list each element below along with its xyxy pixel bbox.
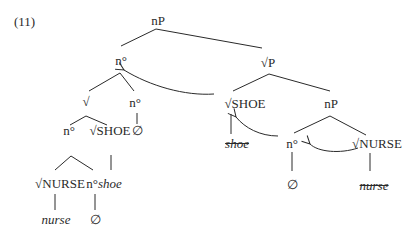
node-nurse-root: √NURSE bbox=[35, 177, 85, 191]
node-inner-n: n° bbox=[63, 124, 75, 138]
node-shoe-root: √SHOE bbox=[224, 97, 265, 111]
node-root-radical: √ bbox=[82, 95, 89, 109]
example-number: (11) bbox=[14, 14, 35, 30]
node-right-nurse-root: √NURSE bbox=[352, 137, 402, 151]
leaf-shoe-struck: shoe bbox=[225, 137, 249, 151]
node-inner-shoe-root: √SHOE bbox=[89, 124, 130, 138]
node-inner-nP: nP bbox=[324, 97, 338, 111]
node-right-n-null: ∅ bbox=[287, 178, 298, 192]
n-shoe-suffix: shoe bbox=[98, 176, 122, 191]
n-shoe-prefix: n° bbox=[86, 176, 98, 191]
leaf-nurse: nurse bbox=[42, 213, 71, 227]
node-n: n° bbox=[129, 96, 141, 110]
node-n-null: ∅ bbox=[132, 124, 143, 138]
tree-branches bbox=[0, 0, 419, 236]
leaf-nurse-struck: nurse bbox=[360, 179, 389, 193]
node-root-P: √P bbox=[261, 56, 275, 70]
node-n-shoe: n°shoe bbox=[86, 177, 122, 191]
node-right-n: n° bbox=[286, 137, 298, 151]
leaf-null: ∅ bbox=[90, 213, 101, 227]
node-n-head: n° bbox=[115, 54, 127, 68]
node-root-nP: nP bbox=[151, 14, 165, 28]
